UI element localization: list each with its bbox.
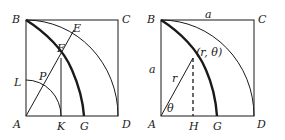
label-a-top: a xyxy=(205,8,212,21)
label-a-side: a xyxy=(149,63,156,76)
label-A-right: A xyxy=(147,118,156,131)
label-C-left: C xyxy=(122,13,131,26)
label-L: L xyxy=(13,76,21,89)
label-theta: θ xyxy=(167,102,174,115)
label-E: E xyxy=(72,22,81,35)
quadratrix-diagram: B C E F L P A K G D B a C (r, θ) a r θ A… xyxy=(0,0,285,140)
right-panel: B a C (r, θ) a r θ A H G D xyxy=(146,8,267,133)
label-A-left: A xyxy=(12,118,21,131)
right-square xyxy=(161,20,254,116)
radius-line-r xyxy=(161,58,193,116)
label-D-left: D xyxy=(121,118,131,131)
label-H: H xyxy=(188,120,199,133)
left-panel: B C E F L P A K G D xyxy=(11,13,131,133)
label-point-r-theta: (r, θ) xyxy=(196,46,222,59)
label-G-right: G xyxy=(213,120,222,133)
label-D-right: D xyxy=(256,118,266,131)
label-B-left: B xyxy=(11,13,20,26)
label-C-right: C xyxy=(258,13,267,26)
label-B-right: B xyxy=(146,13,155,26)
label-K: K xyxy=(56,120,66,133)
label-P: P xyxy=(38,70,47,83)
label-G-left: G xyxy=(80,120,89,133)
line-AE xyxy=(26,30,74,116)
right-quarter-circle xyxy=(161,20,254,116)
label-F: F xyxy=(56,42,65,55)
label-r: r xyxy=(172,72,178,85)
